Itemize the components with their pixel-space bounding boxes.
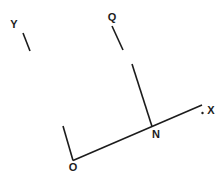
segment-q-to-n [132,64,152,127]
line-o-to-x [73,105,202,161]
label-q: Q [108,12,117,23]
label-o: O [69,162,78,173]
label-y: Y [10,19,17,30]
segment-q-tick [112,26,123,50]
label-x: X [207,105,214,116]
segment-y-tick [23,33,30,51]
dot-before-x [201,112,203,114]
label-n: N [152,129,160,140]
diagram-canvas: Y Q X N O [0,0,223,184]
segment-o-toward-y [63,126,73,161]
diagram-lines [0,0,223,184]
